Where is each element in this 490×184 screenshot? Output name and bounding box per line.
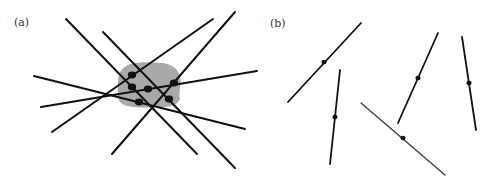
segment-midpoint-dot — [321, 60, 326, 64]
intersection-dot-1 — [128, 72, 136, 79]
segment-3 — [398, 33, 438, 123]
panel-b: (b) — [270, 17, 476, 175]
panel-a-label: (a) — [14, 16, 29, 29]
segment-midpoint-dot — [415, 76, 420, 80]
segment-midpoint-dot — [466, 81, 471, 85]
segment-midpoint-dot — [332, 115, 337, 119]
intersection-dot-4 — [170, 80, 178, 87]
figure-canvas: (a) (b) — [0, 0, 490, 184]
intersection-dot-6 — [135, 99, 143, 106]
intersection-dot-5 — [165, 96, 173, 103]
panel-a: (a) — [14, 12, 257, 168]
segment-2 — [330, 70, 340, 164]
segment-4 — [462, 37, 476, 130]
panel-b-label: (b) — [270, 17, 286, 30]
segment-1 — [288, 23, 361, 102]
segment-midpoint-dot — [400, 136, 405, 140]
intersection-dot-3 — [144, 86, 152, 93]
separated-segments — [288, 23, 476, 175]
intersection-dot-2 — [128, 84, 136, 91]
